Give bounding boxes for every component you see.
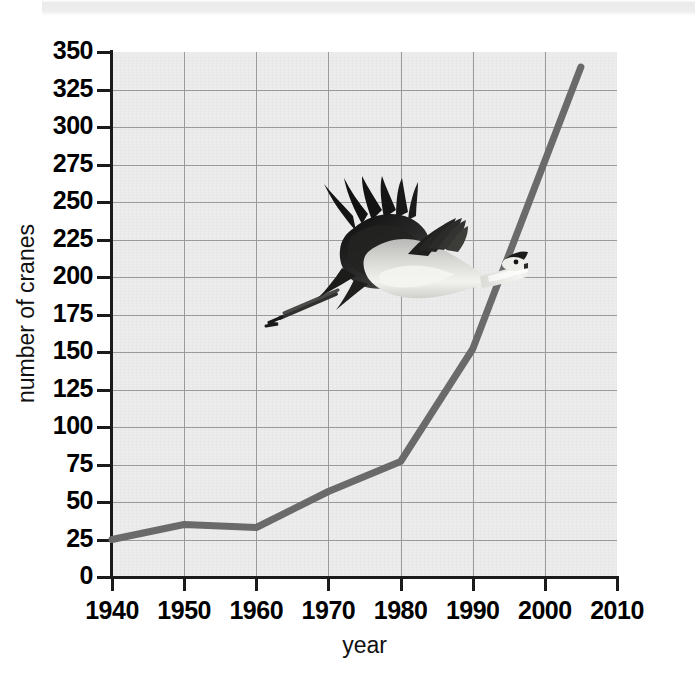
y-axis-tick-label: 325: [3, 74, 93, 103]
cranes-population-line: [112, 67, 581, 540]
y-axis-tick: [97, 426, 112, 429]
data-series-layer: [112, 52, 617, 577]
y-axis-tick-label: 25: [3, 524, 93, 553]
y-axis-tick: [97, 51, 112, 54]
x-axis-tick: [255, 576, 258, 591]
y-axis-tick: [97, 501, 112, 504]
y-axis-tick-label: 350: [3, 36, 93, 65]
x-axis-tick: [183, 576, 186, 591]
y-axis-tick: [97, 276, 112, 279]
x-axis-tick: [472, 576, 475, 591]
y-axis-tick: [97, 351, 112, 354]
y-axis-tick: [97, 464, 112, 467]
y-axis-tick-label: 275: [3, 149, 93, 178]
y-axis-tick-label: 75: [3, 449, 93, 478]
x-axis-tick: [111, 576, 114, 591]
y-axis-tick: [97, 314, 112, 317]
y-axis-title: number of cranes: [13, 204, 40, 424]
chart-page: 0255075100125150175200225250275300325350…: [0, 0, 695, 674]
y-axis-tick: [97, 389, 112, 392]
y-axis-tick: [97, 126, 112, 129]
y-axis-tick: [97, 89, 112, 92]
y-axis-tick-label: 50: [3, 486, 93, 515]
x-axis-tick: [616, 576, 619, 591]
line-chart-figure: 0255075100125150175200225250275300325350…: [0, 0, 695, 674]
x-axis-tick: [400, 576, 403, 591]
y-axis-tick-label: 0: [3, 561, 93, 590]
y-axis-tick: [97, 201, 112, 204]
y-axis-tick: [97, 164, 112, 167]
x-axis-tick-label: 2010: [567, 596, 667, 625]
x-axis-tick: [327, 576, 330, 591]
y-axis-tick-label: 300: [3, 111, 93, 140]
x-axis-title: year: [112, 632, 617, 659]
x-axis-tick: [544, 576, 547, 591]
y-axis-tick: [97, 576, 112, 579]
y-axis-tick: [97, 239, 112, 242]
